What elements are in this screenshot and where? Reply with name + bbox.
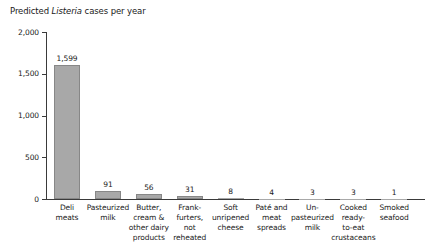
category-label-line: seafood: [358, 213, 430, 223]
bar-value-label: 8: [211, 187, 251, 196]
chart-title: Predicted Listeria cases per year: [10, 6, 146, 16]
y-axis-tick-label: 1,000: [0, 111, 39, 120]
category-label-line: crustaceans: [317, 233, 389, 243]
bar-value-label: 3: [333, 188, 373, 197]
x-axis-category-label: Smokedseafood: [358, 203, 430, 223]
bar: [54, 65, 80, 199]
bar: [136, 194, 162, 199]
chart-title-prefix: Predicted: [10, 6, 52, 16]
bar-value-label: 1,599: [47, 54, 87, 63]
y-axis-tick-label: 1,500: [0, 69, 39, 78]
bar-value-label: 3: [292, 188, 332, 197]
chart-title-suffix: cases per year: [82, 6, 146, 16]
bar-value-label: 31: [170, 185, 210, 194]
bar: [177, 196, 203, 199]
y-axis-tick-label: 500: [0, 153, 39, 162]
category-label-line: reheated: [154, 233, 226, 243]
bar-value-label: 91: [88, 180, 128, 189]
bar-value-label: 4: [252, 188, 292, 197]
y-axis-tick-label: 2,000: [0, 28, 39, 37]
bar: [218, 198, 244, 199]
category-label-line: to-eat: [317, 223, 389, 233]
category-label-line: Smoked: [358, 203, 430, 213]
x-axis-line: [46, 199, 425, 200]
bar-value-label: 1: [374, 188, 414, 197]
chart-title-italic: Listeria: [52, 6, 82, 16]
bar-value-label: 56: [129, 183, 169, 192]
bar-chart: Predicted Listeria cases per year 05001,…: [0, 0, 432, 252]
bar: [95, 191, 121, 199]
